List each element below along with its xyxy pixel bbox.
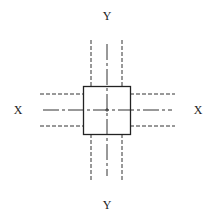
label-y-bottom: Y xyxy=(103,198,112,212)
center-mark-icon xyxy=(105,108,109,112)
label-y-top: Y xyxy=(103,9,112,23)
axes-diagram: Y Y X X xyxy=(0,0,209,222)
label-x-right: X xyxy=(194,103,203,117)
label-x-left: X xyxy=(14,103,23,117)
